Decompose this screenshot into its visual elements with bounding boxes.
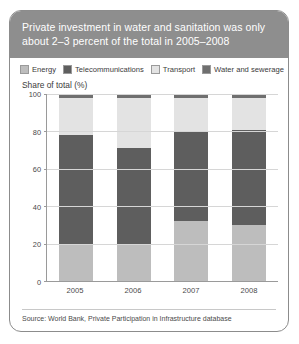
gridline xyxy=(47,206,278,207)
legend-item-energy[interactable]: Energy xyxy=(20,65,56,74)
bar-2008[interactable] xyxy=(232,94,266,281)
y-tick-mark xyxy=(44,169,47,170)
plot-canvas xyxy=(46,94,278,282)
x-tick-label: 2005 xyxy=(58,286,92,295)
legend-item-transport[interactable]: Transport xyxy=(151,65,195,74)
x-tick-label: 2008 xyxy=(232,286,266,295)
y-tick-label: 20 xyxy=(33,240,41,249)
y-axis-title: Share of total (%) xyxy=(10,78,288,92)
source-divider xyxy=(22,309,276,310)
legend-label-transport: Transport xyxy=(163,65,195,74)
legend-item-telecommunications[interactable]: Telecommunications xyxy=(63,65,144,74)
legend-swatch-energy xyxy=(20,65,29,74)
bar-segment xyxy=(117,148,151,243)
gridline xyxy=(47,131,278,132)
bar-segment xyxy=(117,244,151,281)
bar-segment xyxy=(59,245,93,281)
legend-swatch-telecommunications xyxy=(63,65,72,74)
legend-label-energy: Energy xyxy=(32,65,56,74)
bar-2005[interactable] xyxy=(59,94,93,281)
legend-label-water-and-sewerage: Water and sewerage xyxy=(214,65,284,74)
y-tick-mark xyxy=(44,206,47,207)
plot-area: 020406080100 2005200620072008 xyxy=(22,94,278,282)
bar-segment xyxy=(174,98,208,132)
x-tick-label: 2006 xyxy=(116,286,150,295)
bar-segment xyxy=(174,221,208,281)
bar-2007[interactable] xyxy=(174,94,208,281)
chart-title-band: Private investment in water and sanitati… xyxy=(10,11,288,58)
x-tick-label: 2007 xyxy=(174,286,208,295)
y-axis-ticks: 020406080100 xyxy=(22,94,44,282)
bar-segment xyxy=(232,130,266,225)
y-tick-label: 100 xyxy=(29,90,41,99)
y-tick-label: 60 xyxy=(33,165,41,174)
bar-2006[interactable] xyxy=(117,94,151,281)
y-tick-mark xyxy=(44,244,47,245)
gridline xyxy=(47,94,278,95)
gridline xyxy=(47,244,278,245)
page-title: Private investment in water and sanitati… xyxy=(22,20,276,48)
bar-segment xyxy=(59,135,93,245)
bar-segment xyxy=(232,98,266,130)
legend-item-water-and-sewerage[interactable]: Water and sewerage xyxy=(202,65,284,74)
chart-legend: Energy Telecommunications Transport Wate… xyxy=(10,58,288,78)
legend-label-telecommunications: Telecommunications xyxy=(75,65,144,74)
legend-swatch-water-and-sewerage xyxy=(202,65,211,74)
bar-segment xyxy=(232,225,266,281)
bar-group xyxy=(47,94,278,281)
y-tick-mark xyxy=(44,94,47,95)
source-note: Source: World Bank, Private Participatio… xyxy=(10,309,288,331)
source-text: Source: World Bank, Private Participatio… xyxy=(22,315,232,322)
chart-card: Private investment in water and sanitati… xyxy=(9,10,289,332)
bar-segment xyxy=(117,98,151,148)
x-axis-ticks: 2005200620072008 xyxy=(46,282,278,295)
gridline xyxy=(47,169,278,170)
bar-segment xyxy=(174,131,208,221)
y-tick-label: 0 xyxy=(37,278,41,287)
y-tick-label: 80 xyxy=(33,127,41,136)
legend-swatch-transport xyxy=(151,65,160,74)
bar-segment xyxy=(59,98,93,135)
y-tick-mark xyxy=(44,131,47,132)
y-tick-label: 40 xyxy=(33,202,41,211)
